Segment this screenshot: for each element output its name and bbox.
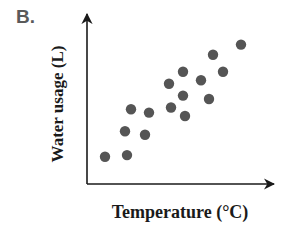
data-point <box>140 130 150 140</box>
data-point <box>122 150 132 160</box>
data-point <box>100 152 110 162</box>
y-axis-label: Water usage (L) <box>48 46 68 163</box>
data-point <box>204 94 214 104</box>
data-point <box>120 126 130 136</box>
data-point <box>164 79 174 89</box>
data-point <box>178 67 188 77</box>
data-point <box>144 107 154 117</box>
data-point <box>180 111 190 121</box>
data-point <box>166 102 176 112</box>
data-points <box>100 39 246 162</box>
data-point <box>178 90 188 100</box>
data-point <box>236 39 246 49</box>
data-point <box>218 67 228 77</box>
data-point <box>126 104 136 114</box>
data-point <box>196 75 206 85</box>
x-axis-label: Temperature (°C) <box>112 202 249 223</box>
data-point <box>208 50 218 60</box>
scatter-plot <box>0 0 292 225</box>
